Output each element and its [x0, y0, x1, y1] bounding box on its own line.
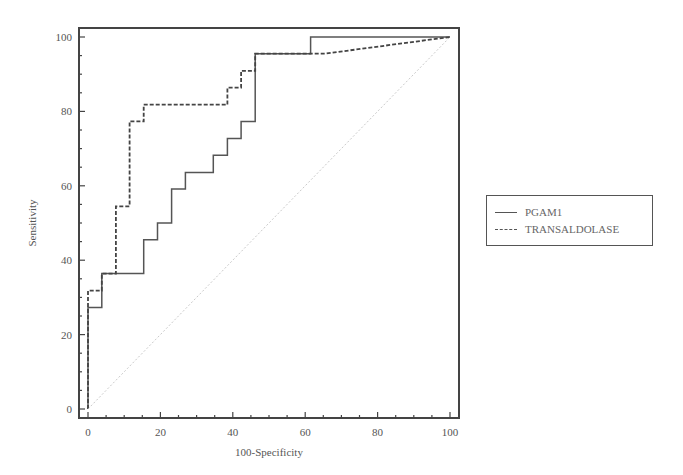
legend: PGAM1 TRANSALDOLASE — [486, 195, 653, 246]
data-series — [88, 37, 450, 409]
y-tick-label: 80 — [61, 105, 73, 117]
x-tick-label: 0 — [85, 426, 91, 438]
x-tick-label: 60 — [300, 426, 312, 438]
axis-ticks: 020406080100020406080100 — [56, 31, 459, 438]
x-tick-label: 40 — [227, 426, 239, 438]
legend-label: TRANSALDOLASE — [525, 223, 619, 235]
legend-label: PGAM1 — [525, 206, 562, 218]
legend-item-pgam1: PGAM1 — [495, 206, 562, 218]
series-reference-line — [88, 37, 450, 409]
y-tick-label: 60 — [61, 180, 73, 192]
y-tick-label: 20 — [61, 329, 73, 341]
y-tick-label: 0 — [67, 403, 73, 415]
x-tick-label: 100 — [442, 426, 459, 438]
x-axis-title: 100-Specificity — [235, 446, 303, 458]
y-tick-label: 40 — [61, 254, 73, 266]
y-axis-title: Sensitivity — [26, 199, 38, 247]
x-tick-label: 80 — [372, 426, 384, 438]
y-tick-label: 100 — [56, 31, 73, 43]
legend-item-transaldolase: TRANSALDOLASE — [495, 223, 619, 235]
dashed-line-icon — [495, 229, 517, 230]
solid-line-icon — [495, 212, 517, 213]
x-tick-label: 20 — [155, 426, 167, 438]
